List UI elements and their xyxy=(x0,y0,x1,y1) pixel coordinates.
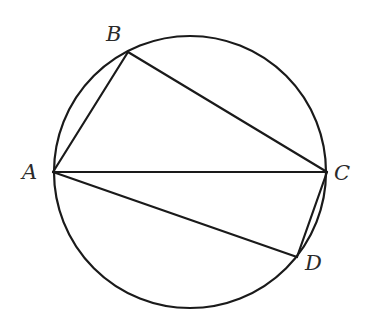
point-label-d: D xyxy=(304,251,322,275)
geometry-diagram: B A C D xyxy=(0,0,367,326)
point-label-c: C xyxy=(334,161,350,185)
point-label-b: B xyxy=(105,22,121,46)
point-label-a: A xyxy=(20,160,37,184)
segment-bc xyxy=(128,52,327,172)
segment-ad xyxy=(53,172,297,257)
segment-cd xyxy=(297,172,327,257)
segment-ab xyxy=(53,52,128,172)
